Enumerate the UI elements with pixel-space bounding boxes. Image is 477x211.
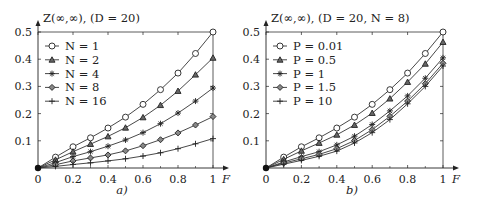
x-tick-label: 0.8 — [169, 173, 187, 186]
legend-item: P = 1.5 — [273, 80, 336, 94]
x-tick-label: 0.6 — [363, 173, 381, 186]
y-axis-arrow-icon — [36, 20, 41, 26]
y-axis-arrow-icon — [264, 20, 269, 26]
x-tick-label: 0.2 — [293, 173, 311, 186]
legend-item: N = 16 — [45, 94, 107, 108]
legend-item: N = 1 — [45, 39, 99, 53]
legend-label: N = 8 — [65, 80, 99, 94]
x-tick-label: 0 — [35, 173, 42, 186]
origin-dot — [263, 165, 269, 171]
x-tick-label: 0 — [263, 173, 270, 186]
legend-item: P = 0.01 — [273, 39, 343, 53]
x-tick-label: 1 — [440, 173, 447, 186]
y-tick-label: 0.2 — [15, 108, 33, 121]
y-tick-label: 0.2 — [243, 108, 261, 121]
origin-dot — [35, 165, 41, 171]
x-tick-label: 1 — [210, 173, 217, 186]
y-tick-label: 0.4 — [15, 53, 33, 66]
y-tick-label: 0.3 — [243, 80, 261, 93]
x-axis-arrow-icon — [453, 166, 459, 171]
legend-item: N = 2 — [45, 53, 99, 67]
legend-label: N = 1 — [65, 39, 99, 53]
y-tick-label: 0.3 — [15, 80, 33, 93]
y-tick-label: 0.5 — [243, 26, 261, 39]
x-tick-label: 0.2 — [64, 173, 82, 186]
legend-label: P = 0.5 — [293, 53, 336, 67]
legend: N = 1N = 2N = 4N = 8N = 16 — [45, 39, 107, 108]
panel-label: b) — [346, 183, 358, 197]
x-axis-arrow-icon — [223, 166, 229, 171]
x-axis-label: F — [221, 172, 231, 186]
y-tick-label: 0.1 — [15, 135, 33, 148]
legend-item: P = 1 — [273, 67, 325, 81]
legend-label: N = 2 — [65, 53, 99, 67]
legend-item: P = 10 — [273, 94, 332, 108]
chart-panel-b: 00.20.40.60.81F0.10.20.30.40.5Z(∞,∞), (D… — [243, 11, 462, 197]
y-tick-label: 0.5 — [15, 26, 33, 39]
legend-label: N = 16 — [65, 94, 107, 108]
panel-label: a) — [116, 183, 127, 197]
x-tick-label: 0.6 — [134, 173, 152, 186]
y-tick-label: 0.1 — [243, 135, 261, 148]
x-tick-label: 0.4 — [328, 173, 346, 186]
figure: 00.20.40.60.81F0.10.20.30.40.5Z(∞,∞), (D… — [0, 0, 477, 211]
chart-panel-a: 00.20.40.60.81F0.10.20.30.40.5Z(∞,∞), (D… — [15, 11, 232, 197]
legend-item: N = 8 — [45, 80, 99, 94]
legend-label: P = 10 — [293, 94, 332, 108]
legend-label: P = 1.5 — [293, 80, 336, 94]
y-tick-label: 0.4 — [243, 53, 261, 66]
legend-label: P = 0.01 — [293, 39, 343, 53]
legend-item: N = 4 — [45, 67, 99, 81]
legend-label: P = 1 — [293, 67, 325, 81]
x-axis-label: F — [451, 172, 461, 186]
chart-title: Z(∞,∞), (D = 20) — [43, 11, 140, 25]
legend: P = 0.01P = 0.5P = 1P = 1.5P = 10 — [273, 39, 343, 108]
legend-label: N = 4 — [65, 67, 99, 81]
x-tick-label: 0.4 — [99, 173, 117, 186]
legend-item: P = 0.5 — [273, 53, 336, 67]
chart-title: Z(∞,∞), (D = 20, N = 8) — [271, 11, 410, 25]
x-tick-label: 0.8 — [399, 173, 417, 186]
